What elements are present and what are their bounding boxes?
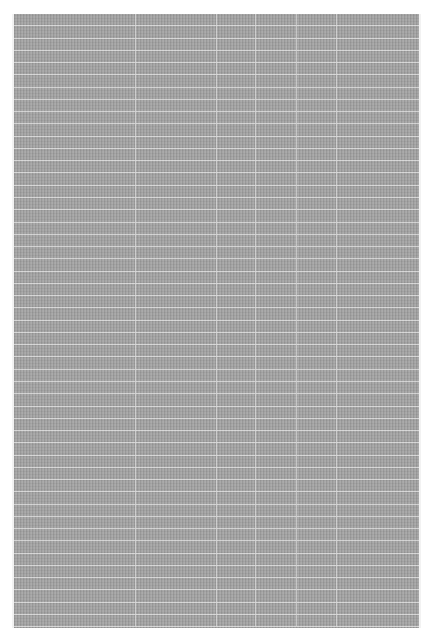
table-cell: [14, 480, 136, 491]
table-cell: [297, 615, 337, 626]
table-cell: [256, 615, 297, 626]
table-cell: [217, 235, 256, 246]
table-cell: [136, 186, 217, 197]
table-cell: [217, 468, 256, 479]
table-cell: [136, 578, 217, 589]
table-cell: [136, 480, 217, 491]
table-cell: [217, 198, 256, 209]
table-cell: [217, 517, 256, 528]
table-cell: [256, 247, 297, 258]
table-cell: [14, 100, 136, 111]
table-cell: [14, 112, 136, 123]
table-row: [14, 566, 419, 578]
table-cell: [297, 235, 337, 246]
table-cell: [256, 26, 297, 37]
table-cell: [217, 541, 256, 552]
table-cell: [256, 51, 297, 62]
table-cell: [136, 541, 217, 552]
table-cell: [136, 88, 217, 99]
table-cell: [297, 100, 337, 111]
table-cell: [14, 505, 136, 516]
table-cell: [14, 615, 136, 626]
table-row: [14, 554, 419, 566]
table-row: [14, 443, 419, 455]
table-row: [14, 137, 419, 149]
table-cell: [14, 186, 136, 197]
table-cell: [217, 112, 256, 123]
table-row: [14, 517, 419, 529]
table-cell: [337, 100, 419, 111]
table-cell: [136, 456, 217, 467]
table-cell: [337, 223, 419, 234]
table-cell: [14, 590, 136, 601]
table-cell: [14, 26, 136, 37]
table-cell: [217, 345, 256, 356]
table-cell: [217, 284, 256, 295]
table-cell: [14, 603, 136, 614]
table-cell: [256, 88, 297, 99]
table-cell: [217, 443, 256, 454]
table-cell: [297, 63, 337, 74]
table-cell: [337, 615, 419, 626]
table-cell: [217, 394, 256, 405]
table-cell: [337, 14, 419, 25]
table-cell: [256, 112, 297, 123]
table-cell: [337, 431, 419, 442]
table-cell: [297, 75, 337, 86]
table-cell: [297, 590, 337, 601]
table-cell: [217, 39, 256, 50]
table-cell: [14, 223, 136, 234]
table-cell: [14, 419, 136, 430]
table-cell: [337, 554, 419, 565]
table-cell: [297, 370, 337, 381]
table-cell: [14, 308, 136, 319]
table-cell: [337, 272, 419, 283]
table-cell: [297, 357, 337, 368]
table-cell: [136, 394, 217, 405]
table-cell: [256, 345, 297, 356]
table-row: [14, 247, 419, 259]
table-cell: [136, 333, 217, 344]
table-cell: [136, 14, 217, 25]
table-cell: [297, 578, 337, 589]
table-cell: [256, 321, 297, 332]
table-cell: [256, 296, 297, 307]
table-cell: [337, 394, 419, 405]
table-cell: [297, 149, 337, 160]
table-cell: [337, 468, 419, 479]
table-cell: [256, 198, 297, 209]
table-cell: [217, 431, 256, 442]
table-cell: [297, 419, 337, 430]
table-cell: [136, 198, 217, 209]
table-cell: [14, 554, 136, 565]
table-cell: [217, 26, 256, 37]
table-cell: [14, 541, 136, 552]
table-cell: [14, 75, 136, 86]
table-cell: [297, 345, 337, 356]
table-cell: [217, 407, 256, 418]
table-cell: [136, 39, 217, 50]
table-cell: [136, 419, 217, 430]
table-cell: [14, 235, 136, 246]
table-cell: [297, 14, 337, 25]
table-cell: [337, 75, 419, 86]
table-cell: [297, 112, 337, 123]
table-row: [14, 357, 419, 369]
table-cell: [297, 39, 337, 50]
table-cell: [256, 210, 297, 221]
table-cell: [297, 529, 337, 540]
table-row: [14, 149, 419, 161]
table-cell: [256, 272, 297, 283]
table-cell: [136, 223, 217, 234]
table-grid: [14, 14, 419, 628]
table-cell: [297, 259, 337, 270]
table-row: [14, 14, 419, 26]
table-cell: [256, 431, 297, 442]
table-cell: [337, 149, 419, 160]
table-cell: [217, 100, 256, 111]
table-cell: [256, 137, 297, 148]
table-cell: [14, 529, 136, 540]
table-cell: [297, 468, 337, 479]
table-cell: [256, 223, 297, 234]
table-cell: [217, 615, 256, 626]
